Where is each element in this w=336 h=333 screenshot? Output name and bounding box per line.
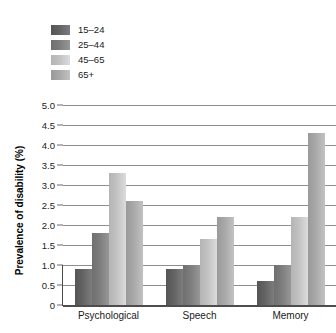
y-axis-tick-label: 2.5 <box>42 200 55 211</box>
bar <box>183 265 200 305</box>
bar <box>291 217 308 305</box>
legend-label: 45–65 <box>78 55 104 65</box>
legend-item: 65+ <box>51 69 104 81</box>
bar <box>217 217 234 305</box>
y-axis-tick-label: 5.0 <box>42 100 55 111</box>
legend-label: 15–24 <box>78 25 104 35</box>
bar <box>257 281 274 305</box>
bar-group <box>63 105 154 305</box>
legend-swatch <box>51 55 70 65</box>
y-axis-tick-label: 4.0 <box>42 140 55 151</box>
bar <box>274 265 291 305</box>
y-axis-tick-label: 1.0 <box>42 260 55 271</box>
legend-label: 65+ <box>78 70 94 80</box>
bar <box>92 233 109 305</box>
y-axis-ticks: 00.51.01.52.02.53.03.54.04.55.0 <box>0 105 63 305</box>
y-axis-tick-label: 2.0 <box>42 220 55 231</box>
bar <box>109 173 126 305</box>
y-axis-tick-label: 3.0 <box>42 180 55 191</box>
chart-legend: 15–2425–4445–6565+ <box>51 24 104 81</box>
bar <box>126 201 143 305</box>
legend-item: 15–24 <box>51 24 104 36</box>
bar <box>200 239 217 305</box>
x-axis-label: Psychological <box>63 310 154 321</box>
legend-swatch <box>51 40 70 50</box>
y-axis-tick-label: 4.5 <box>42 120 55 131</box>
x-axis-label: Speech <box>154 310 245 321</box>
bar-group <box>245 105 336 305</box>
x-axis-line <box>63 305 336 307</box>
legend-item: 25–44 <box>51 39 104 51</box>
legend-swatch <box>51 70 70 80</box>
y-axis-title: Prevalence of disability (%) <box>14 121 25 301</box>
y-axis-tick-label: 0.5 <box>42 280 55 291</box>
plot-area <box>63 105 336 305</box>
x-axis-labels: PsychologicalSpeechMemory <box>63 310 336 321</box>
bar <box>166 269 183 305</box>
x-axis-label: Memory <box>245 310 336 321</box>
bar <box>75 269 92 305</box>
bar-groups <box>63 105 336 305</box>
legend-label: 25–44 <box>78 40 104 50</box>
y-axis-tick-label: 0 <box>50 300 55 311</box>
bar <box>308 133 325 305</box>
y-axis-tick-label: 1.5 <box>42 240 55 251</box>
bar-group <box>154 105 245 305</box>
legend-swatch <box>51 25 70 35</box>
legend-item: 45–65 <box>51 54 104 66</box>
y-axis-tick-label: 3.5 <box>42 160 55 171</box>
